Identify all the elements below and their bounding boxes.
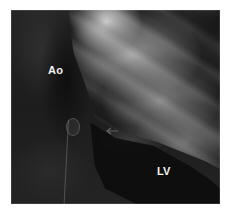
left-ventricle-label: LV	[157, 166, 171, 177]
aorta-label: Ao	[48, 65, 63, 76]
arrow-icon	[105, 126, 119, 136]
angiogram-image: Ao LV	[11, 10, 220, 204]
